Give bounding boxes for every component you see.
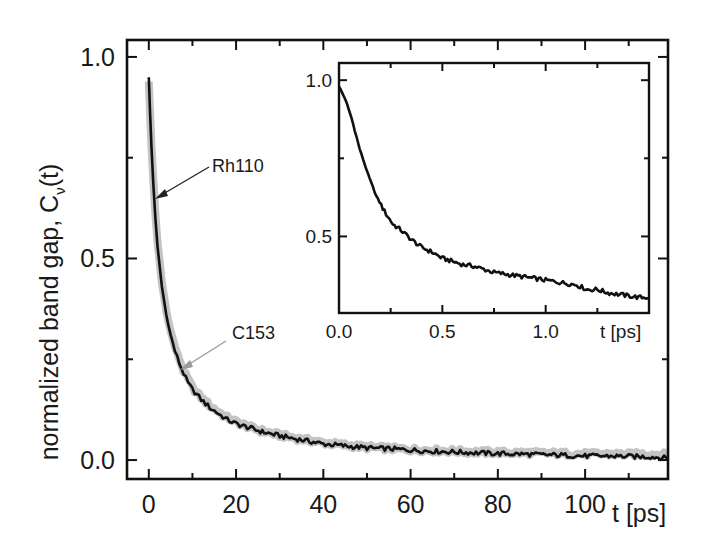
y-axis-label-suffix: (t): [35, 164, 63, 188]
x-tick-label: 1.0: [532, 321, 558, 342]
y-tick-label: 0.5: [80, 244, 115, 272]
y-tick-label: 0.5: [306, 226, 332, 247]
x-tick-label: 60: [397, 490, 425, 518]
x-tick-label: 0.0: [326, 321, 352, 342]
y-axis-label-subscript: ν: [51, 187, 68, 195]
y-tick-label: 1.0: [80, 43, 115, 71]
main-y-tick-labels: 0.00.51.0: [80, 43, 115, 474]
y-axis-label: normalized band gap, Cν(t): [35, 164, 68, 461]
y-tick-label: 1.0: [306, 70, 332, 91]
x-tick-label: 100: [564, 490, 606, 518]
inset-y-tick-labels: 0.51.0: [306, 70, 332, 247]
main-x-tick-labels: 020406080100: [142, 490, 606, 518]
x-tick-label: 0: [142, 490, 156, 518]
x-tick-label: 80: [484, 490, 512, 518]
inset-x-tick-labels: 0.00.51.0: [326, 321, 559, 342]
inset-plot-background: [339, 63, 649, 313]
inset-plot: 0.00.51.0 0.51.0 t [ps]: [306, 63, 649, 342]
band-gap-correlation-figure: 020406080100 0.00.51.0 t [ps] normalized…: [0, 0, 718, 545]
main-x-axis-label: t [ps]: [612, 499, 666, 527]
y-axis-label-main: normalized band gap, C: [35, 195, 63, 460]
inset-x-axis-label: t [ps]: [600, 321, 641, 342]
x-tick-label: 0.5: [429, 321, 455, 342]
rh110-annotation-label: Rh110: [212, 156, 264, 176]
x-tick-label: 20: [222, 490, 250, 518]
c153-annotation-label: C153: [232, 323, 275, 343]
x-tick-label: 40: [309, 490, 337, 518]
y-tick-label: 0.0: [80, 446, 115, 474]
